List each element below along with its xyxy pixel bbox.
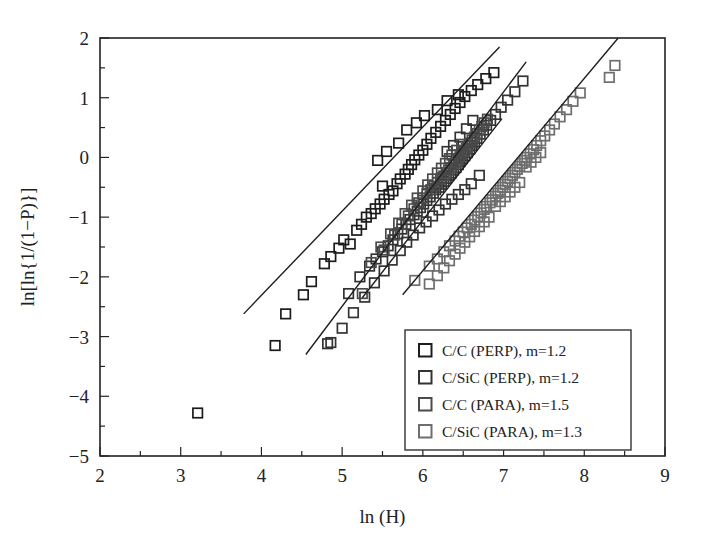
x-tick-label: 9 xyxy=(660,465,670,486)
y-tick-label: 2 xyxy=(80,28,90,49)
x-tick-label: 5 xyxy=(337,465,347,486)
y-tick-label: −5 xyxy=(69,446,89,467)
y-tick-label: 0 xyxy=(80,147,90,168)
y-tick-labels: −5−4−3−2−1012 xyxy=(69,28,90,467)
y-tick-label: −2 xyxy=(69,267,89,288)
legend-label-1: C/SiC (PERP), m=1.2 xyxy=(442,369,579,387)
x-tick-label: 6 xyxy=(418,465,428,486)
legend-label-3: C/SiC (PARA), m=1.3 xyxy=(442,423,582,441)
y-tick-label: −1 xyxy=(69,207,89,228)
x-tick-label: 8 xyxy=(580,465,590,486)
y-tick-label: −3 xyxy=(69,327,89,348)
y-tick-label: 1 xyxy=(80,88,90,109)
x-tick-label: 3 xyxy=(176,465,186,486)
x-tick-label: 4 xyxy=(257,465,267,486)
x-tick-labels: 23456789 xyxy=(95,465,670,486)
x-tick-label: 2 xyxy=(95,465,105,486)
weibull-scatter-chart: 23456789 −5−4−3−2−1012 C/C (PERP), m=1.2… xyxy=(0,0,704,547)
x-tick-label: 7 xyxy=(499,465,509,486)
weibull-plot-figure: 23456789 −5−4−3−2−1012 C/C (PERP), m=1.2… xyxy=(0,0,704,547)
legend-label-2: C/C (PARA), m=1.5 xyxy=(442,396,569,414)
legend-label-0: C/C (PERP), m=1.2 xyxy=(442,342,566,360)
x-axis-label: ln (H) xyxy=(360,506,406,528)
legend-box: C/C (PERP), m=1.2C/SiC (PERP), m=1.2C/C … xyxy=(405,330,631,450)
y-axis-label: ln[ln{1/(1−P)}] xyxy=(17,188,39,307)
y-tick-label: −4 xyxy=(69,386,90,407)
